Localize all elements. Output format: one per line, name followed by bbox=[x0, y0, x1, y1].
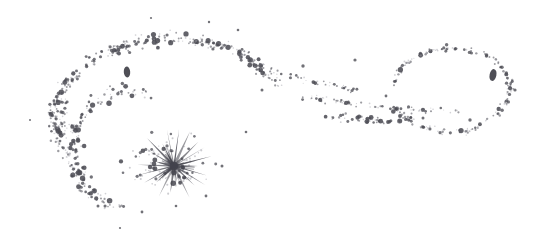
image-canvas: Dandelion seed swirl scatter White field… bbox=[0, 0, 550, 232]
starburst-core bbox=[170, 162, 178, 170]
scatter-swirl-artwork bbox=[0, 0, 550, 232]
